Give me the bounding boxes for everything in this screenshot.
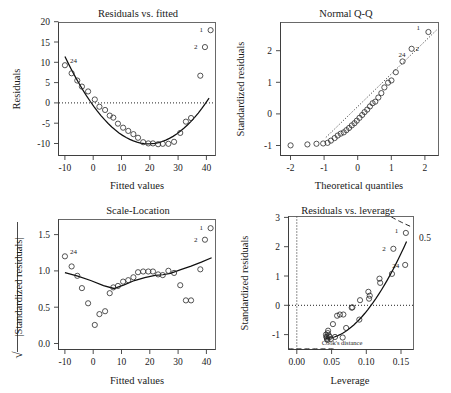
- qq-reference-line: [326, 30, 437, 138]
- x-axis-ticks: 0.00 0.05 0.10 0.15: [288, 350, 409, 368]
- y-tick-label: 20: [41, 17, 51, 27]
- point-label: 2: [382, 245, 386, 253]
- data-point: [166, 268, 171, 273]
- scatter-points: [62, 226, 213, 328]
- data-point: [171, 139, 176, 144]
- data-point: [178, 283, 183, 288]
- y-axis-ticks: 0.0 0.5 1.0 1.5: [38, 230, 58, 349]
- data-point: [97, 104, 102, 109]
- plot-frame: [289, 217, 414, 350]
- data-point: [382, 85, 387, 90]
- y-tick-label: 15: [41, 38, 51, 48]
- y-tick-label: 3: [275, 213, 280, 223]
- x-tick-label: 0: [355, 163, 360, 173]
- data-point: [79, 286, 84, 291]
- plot-frame: [281, 23, 439, 156]
- point-label: 24: [70, 248, 78, 256]
- data-point: [135, 270, 140, 275]
- scatter-points: [62, 28, 213, 147]
- data-point: [198, 267, 203, 272]
- panel-normal-qq: Normal Q-Q -1 0 1 2 Standardized residua…: [226, 0, 451, 197]
- data-point: [131, 132, 136, 137]
- y-axis-label: Standardized residuals: [239, 236, 250, 331]
- x-tick-label: -1: [320, 163, 328, 173]
- x-axis-ticks: -10 0 10 20 30 40: [59, 156, 212, 174]
- data-point: [107, 291, 112, 296]
- panel-title: Normal Q-Q: [319, 8, 373, 19]
- point-label: 1: [200, 26, 204, 34]
- data-point: [92, 322, 97, 327]
- plot-frame: [59, 220, 216, 350]
- x-tick-label: 0.10: [358, 357, 375, 367]
- data-point: [183, 119, 188, 124]
- x-tick-label: 0: [91, 357, 96, 367]
- x-axis-label: Fitted values: [110, 180, 164, 191]
- scatter-points: [288, 29, 431, 148]
- data-point: [188, 115, 193, 120]
- point-label: 2: [194, 43, 198, 51]
- data-point: [97, 312, 102, 317]
- x-tick-label: -10: [59, 163, 72, 173]
- y-axis-ticks: -1 0 1 2 3: [272, 213, 288, 340]
- data-point: [305, 142, 310, 147]
- point-label: 24: [392, 262, 400, 270]
- data-point: [141, 269, 146, 274]
- point-labels: 1224: [399, 24, 421, 59]
- data-point: [208, 28, 213, 33]
- y-axis-label: Standardized residuals: [235, 42, 246, 137]
- y-tick-label: 2: [275, 242, 280, 252]
- data-point: [62, 254, 67, 259]
- y-axis-label: |Standardized residuals|: [13, 238, 24, 337]
- data-point: [86, 89, 91, 94]
- data-point: [288, 143, 293, 148]
- point-labels: 2412: [70, 224, 204, 256]
- panel-title: Residuals vs. leverage: [301, 205, 395, 216]
- data-point: [403, 262, 408, 267]
- x-tick-label: 30: [173, 357, 183, 367]
- data-point: [135, 135, 140, 140]
- point-label: 1: [395, 227, 399, 235]
- x-tick-label: -2: [287, 163, 295, 173]
- data-point: [379, 91, 384, 96]
- y-tick-label: 1.0: [38, 266, 50, 276]
- y-tick-label: -1: [272, 330, 280, 340]
- data-point: [330, 322, 335, 327]
- data-point: [69, 264, 74, 269]
- data-point: [86, 301, 91, 306]
- x-axis-label: Theoretical quantiles: [315, 180, 403, 191]
- scatter-points: [323, 230, 408, 342]
- x-tick-label: 40: [202, 163, 212, 173]
- data-point: [202, 237, 207, 242]
- y-tick-label: -5: [42, 119, 50, 129]
- point-label: 1: [416, 24, 420, 32]
- x-tick-label: -10: [59, 357, 72, 367]
- data-point: [400, 59, 405, 64]
- data-point: [393, 70, 398, 75]
- panel-title: Residuals vs. fitted: [98, 8, 179, 19]
- point-label: 24: [70, 57, 78, 65]
- y-tick-label: 5: [45, 78, 50, 88]
- data-point: [403, 230, 408, 235]
- data-point: [102, 309, 107, 314]
- data-point: [166, 141, 171, 146]
- cooks-distance-contour-upper: [391, 217, 412, 227]
- y-axis-ticks: -10 -5 0 5 10 15 20: [37, 17, 58, 149]
- point-label: 24: [399, 51, 407, 59]
- x-tick-label: 0.00: [288, 357, 305, 367]
- x-tick-label: 0.05: [323, 357, 340, 367]
- y-tick-label: 1.5: [38, 230, 50, 240]
- cooks-distance-annotation: Cook's distance: [322, 339, 363, 346]
- point-label: 2: [416, 45, 420, 53]
- data-point: [102, 107, 107, 112]
- x-tick-label: 0.15: [393, 357, 410, 367]
- y-tick-label: -1: [264, 141, 272, 151]
- y-tick-label: 0: [45, 98, 50, 108]
- y-tick-label: 0: [275, 301, 280, 311]
- point-labels: 2412: [70, 26, 204, 65]
- y-tick-label: 1: [267, 78, 272, 88]
- x-tick-label: 10: [117, 163, 127, 173]
- x-axis-label: Fitted values: [110, 375, 164, 386]
- data-point: [208, 226, 213, 231]
- x-axis-label: Leverage: [330, 375, 369, 386]
- y-tick-label: 1: [275, 272, 280, 282]
